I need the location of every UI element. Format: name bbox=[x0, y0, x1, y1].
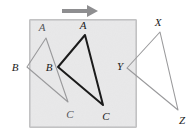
vertex-label-z: Z bbox=[179, 115, 185, 126]
vertex-label-x: X bbox=[155, 17, 162, 28]
vertex-label-y: Y bbox=[117, 61, 123, 72]
geometry-figure: ABCABCXYZ bbox=[0, 0, 196, 132]
vertex-label-a-image: A bbox=[80, 20, 87, 31]
figure-canvas bbox=[0, 0, 196, 132]
vertex-label-c-image: C bbox=[102, 111, 109, 122]
vertex-label-b-image: B bbox=[46, 62, 53, 73]
vertex-label-a-preimage: A bbox=[39, 22, 46, 33]
vertex-label-b-preimage: B bbox=[12, 62, 19, 73]
vertex-label-c-preimage: C bbox=[66, 109, 73, 120]
translation-arrow bbox=[62, 5, 98, 17]
